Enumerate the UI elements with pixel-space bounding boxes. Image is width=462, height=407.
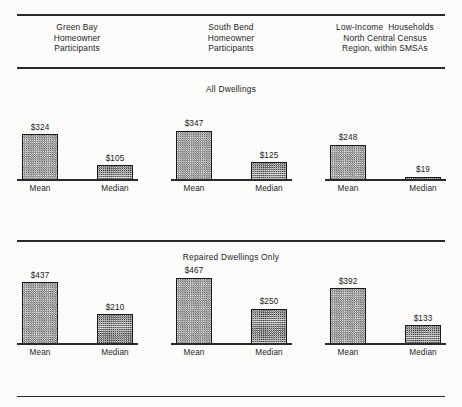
bar-value-label: $324: [31, 123, 50, 132]
bar-column[interactable]: $125: [251, 151, 287, 180]
plot-area: $248$19: [308, 108, 462, 180]
bar-value-label: $125: [260, 151, 279, 160]
bar-column[interactable]: $19: [405, 165, 441, 180]
figure-sheet: Green Bay Homeowner Participants South B…: [0, 0, 462, 407]
bar-column[interactable]: $347: [176, 119, 212, 180]
bar-value-label: $248: [339, 133, 358, 142]
bar-column[interactable]: $324: [22, 123, 58, 180]
bar[interactable]: [330, 145, 366, 180]
tick-label-median: Median: [409, 184, 436, 193]
bar[interactable]: [330, 288, 366, 344]
tick-label-row: MeanMedian: [0, 180, 154, 194]
bar-value-label: $210: [106, 303, 125, 312]
bar-group: $248$19MeanMedian: [308, 108, 462, 194]
bar-column[interactable]: $437: [22, 271, 58, 344]
panel-all-dwellings: $324$105MeanMedian$347$125MeanMedian$248…: [0, 108, 462, 194]
bar[interactable]: [176, 131, 212, 180]
panel-title-repaired-dwellings: Repaired Dwellings Only: [0, 252, 462, 262]
tick-label-median: Median: [255, 348, 282, 357]
bar-value-label: $437: [31, 271, 50, 280]
bar-column[interactable]: $105: [97, 154, 133, 180]
rule-under-headers: [17, 67, 445, 69]
bar-column[interactable]: $467: [176, 266, 212, 344]
tick-label-median: Median: [409, 348, 436, 357]
bar-column[interactable]: $248: [330, 133, 366, 180]
column-header-line: Low-Income Households: [308, 22, 462, 33]
bar-group-row: $437$210MeanMedian$467$250MeanMedian$392…: [0, 272, 462, 358]
rule-bottom: [17, 396, 445, 397]
bar[interactable]: [176, 278, 212, 344]
plot-area: $467$250: [154, 272, 308, 344]
column-header-line: Participants: [154, 43, 308, 54]
column-header-line: Region, within SMSAs: [308, 43, 462, 54]
bar-column[interactable]: $250: [251, 297, 287, 344]
column-header-line: Participants: [0, 43, 154, 54]
bar-group: $467$250MeanMedian: [154, 272, 308, 358]
tick-label-row: MeanMedian: [154, 180, 308, 194]
panel-repaired-dwellings-only: $437$210MeanMedian$467$250MeanMedian$392…: [0, 272, 462, 358]
bar[interactable]: [22, 282, 58, 344]
bar-group: $392$133MeanMedian: [308, 272, 462, 358]
bar[interactable]: [251, 309, 287, 344]
bar-value-label: $250: [260, 297, 279, 306]
bar-value-label: $105: [106, 154, 125, 163]
bar-value-label: $347: [185, 119, 204, 128]
plot-area: $324$105: [0, 108, 154, 180]
column-headers: Green Bay Homeowner Participants South B…: [0, 22, 462, 54]
tick-label-mean: Mean: [30, 184, 51, 193]
plot-area: $392$133: [308, 272, 462, 344]
tick-label-mean: Mean: [30, 348, 51, 357]
column-header-line: Homeowner: [0, 33, 154, 44]
bar-group: $437$210MeanMedian: [0, 272, 154, 358]
bar-value-label: $467: [185, 266, 204, 275]
tick-label-row: MeanMedian: [308, 344, 462, 358]
rule-top: [17, 14, 445, 16]
plot-area: $437$210: [0, 272, 154, 344]
tick-label-median: Median: [101, 348, 128, 357]
rule-between-panels: [17, 240, 445, 242]
plot-area: $347$125: [154, 108, 308, 180]
bar-column[interactable]: $392: [330, 277, 366, 344]
tick-label-median: Median: [101, 184, 128, 193]
bar-value-label: $133: [414, 314, 433, 323]
tick-label-mean: Mean: [338, 184, 359, 193]
tick-label-mean: Mean: [184, 184, 205, 193]
bar[interactable]: [97, 165, 133, 180]
bar-group-row: $324$105MeanMedian$347$125MeanMedian$248…: [0, 108, 462, 194]
column-header-line: Homeowner: [154, 33, 308, 44]
column-header-low-income: Low-Income Households North Central Cens…: [308, 22, 462, 54]
bar-group: $324$105MeanMedian: [0, 108, 154, 194]
bar-value-label: $392: [339, 277, 358, 286]
bar[interactable]: [97, 314, 133, 344]
column-header-line: Green Bay: [0, 22, 154, 33]
column-header-south-bend: South Bend Homeowner Participants: [154, 22, 308, 54]
column-header-line: North Central Census: [308, 33, 462, 44]
tick-label-row: MeanMedian: [308, 180, 462, 194]
tick-label-median: Median: [255, 184, 282, 193]
tick-label-row: MeanMedian: [0, 344, 154, 358]
bar-column[interactable]: $133: [405, 314, 441, 344]
tick-label-mean: Mean: [338, 348, 359, 357]
bar[interactable]: [251, 162, 287, 180]
bar[interactable]: [22, 134, 58, 180]
bar-column[interactable]: $210: [97, 303, 133, 344]
column-header-line: South Bend: [154, 22, 308, 33]
column-header-green-bay: Green Bay Homeowner Participants: [0, 22, 154, 54]
bar-value-label: $19: [416, 165, 430, 174]
tick-label-row: MeanMedian: [154, 344, 308, 358]
tick-label-mean: Mean: [184, 348, 205, 357]
panel-title-all-dwellings: All Dwellings: [0, 84, 462, 94]
bar-group: $347$125MeanMedian: [154, 108, 308, 194]
bar[interactable]: [405, 325, 441, 344]
